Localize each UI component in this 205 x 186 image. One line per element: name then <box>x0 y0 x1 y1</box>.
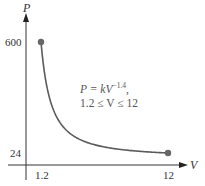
x-axis-arrow-icon <box>179 162 188 168</box>
y-axis-label: P <box>23 2 30 14</box>
y-tick-24: 24 <box>10 148 21 159</box>
equation-exponent: −1.4 <box>112 81 126 90</box>
equation-comma: , <box>126 83 129 95</box>
x-tick-1.2: 1.2 <box>35 170 49 181</box>
endpoint-start <box>38 39 44 45</box>
equation-formula: P = kV <box>80 83 112 95</box>
equation-line-1: P = kV−1.4, <box>80 79 138 96</box>
x-tick-12: 12 <box>163 170 174 181</box>
x-axis <box>8 162 188 168</box>
y-tick-600: 600 <box>5 37 22 48</box>
equation-line-2: 1.2 ≤ V ≤ 12 <box>80 96 138 110</box>
y-axis <box>23 13 29 180</box>
equation-annotation: P = kV−1.4, 1.2 ≤ V ≤ 12 <box>80 79 138 110</box>
x-axis-label: V <box>190 159 197 171</box>
endpoint-end <box>165 150 171 156</box>
